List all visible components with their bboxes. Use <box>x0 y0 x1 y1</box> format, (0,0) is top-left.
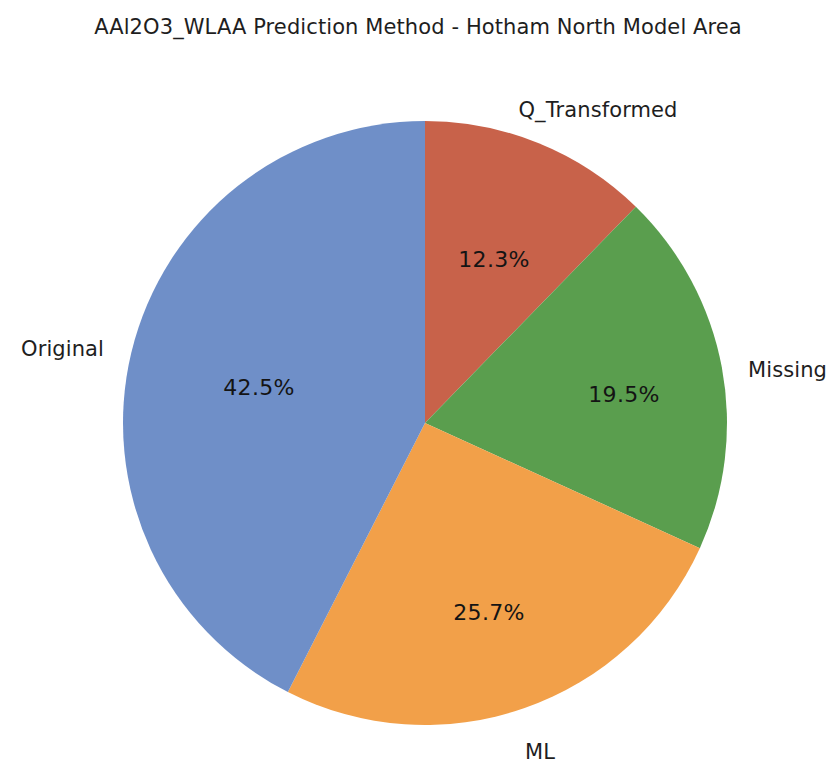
pie-pct-label-ml: 25.7% <box>453 600 524 625</box>
pie-category-label-original: Original <box>21 337 104 361</box>
pie-category-label-ml: ML <box>525 740 555 764</box>
pie-slice-group <box>123 121 727 725</box>
pie-pct-label-missing: 19.5% <box>588 382 659 407</box>
figure-canvas: AAl2O3_WLAA Prediction Method - Hotham N… <box>0 0 836 768</box>
pie-svg <box>0 0 836 768</box>
pie-pct-label-original: 42.5% <box>223 375 294 400</box>
pie-pct-label-q-transformed: 12.3% <box>458 247 529 272</box>
pie-category-label-q-transformed: Q_Transformed <box>518 98 677 122</box>
pie-chart: 12.3%19.5%25.7%42.5% Q_TransformedMissin… <box>0 0 836 768</box>
pie-category-label-missing: Missing <box>748 358 827 382</box>
